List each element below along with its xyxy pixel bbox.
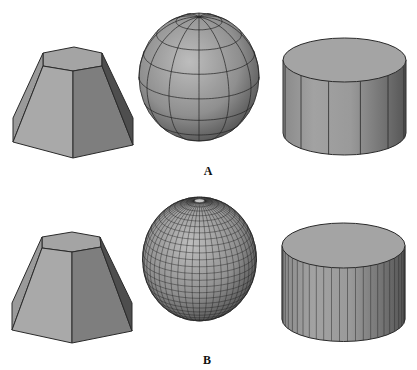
panel-label-a: A [204,164,213,179]
panel-label-b: B [203,353,211,368]
sphere-high-poly-b [143,197,257,321]
sphere-pole [197,16,201,18]
cylinder-high-poly-b [282,223,405,342]
hexagonal-frustum-b [12,232,132,343]
cylinder-top-face [282,223,405,268]
panel-b [12,197,405,343]
sphere-pole [195,199,205,203]
shapes-canvas [0,0,417,370]
cylinder-top-face [283,38,406,82]
panel-a [13,13,406,158]
sphere-low-poly-a [139,13,259,141]
figure: A B [0,0,417,370]
hexagonal-frustum-a [13,47,133,158]
cylinder-low-poly-a [283,38,406,155]
